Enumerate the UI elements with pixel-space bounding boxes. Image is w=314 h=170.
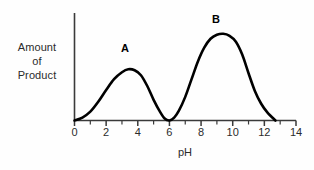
x-axis-label: pH bbox=[70, 146, 300, 158]
x-axis-tick-label: 2 bbox=[97, 126, 115, 138]
x-axis-tick-label: 10 bbox=[224, 126, 242, 138]
x-axis-tick-label: 6 bbox=[160, 126, 178, 138]
peak-label-b: B bbox=[208, 13, 224, 25]
peak-label-a: A bbox=[117, 42, 133, 54]
chart-figure: Amount of Product 02468101214 A B pH bbox=[0, 0, 314, 170]
x-axis-tick-label: 0 bbox=[66, 126, 84, 138]
data-curve bbox=[75, 34, 276, 121]
x-axis-tick-label: 14 bbox=[287, 126, 305, 138]
chart-plot bbox=[0, 0, 314, 170]
x-axis-tick-label: 4 bbox=[129, 126, 147, 138]
x-axis-tick-label: 12 bbox=[255, 126, 273, 138]
x-axis-tick-label: 8 bbox=[192, 126, 210, 138]
